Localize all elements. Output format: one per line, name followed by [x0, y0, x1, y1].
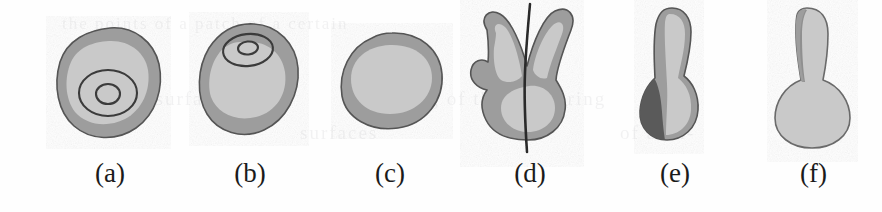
figure-panel-e: (e)	[610, 0, 740, 212]
shape-d-bilobed-bunny	[455, 0, 605, 160]
figure-panel-c: (c)	[320, 0, 460, 212]
figure-panel-f: (f)	[745, 0, 882, 212]
panel-caption-c: (c)	[320, 160, 460, 187]
figure-container: the points of a patch of a certain Subsu…	[0, 0, 882, 212]
figure-panel-a: (a)	[40, 0, 180, 212]
shape-f-light-bulb	[745, 0, 882, 160]
shape-a-rounded-blob	[40, 0, 180, 160]
panel-caption-e: (e)	[610, 160, 740, 187]
figure-panel-d: (d)	[455, 0, 605, 212]
shape-f-outer-body	[775, 8, 850, 148]
shape-b-tilted-ellipsoid	[180, 0, 320, 160]
shape-e-peanut	[610, 0, 740, 160]
shape-c-plain-ellipsoid	[320, 0, 460, 160]
panel-caption-b: (b)	[180, 160, 320, 187]
panel-caption-f: (f)	[745, 160, 882, 187]
shape-b-inner-region	[209, 42, 285, 119]
panel-caption-a: (a)	[40, 160, 180, 187]
figure-panel-b: (b)	[180, 0, 320, 212]
panel-caption-d: (d)	[455, 160, 605, 187]
